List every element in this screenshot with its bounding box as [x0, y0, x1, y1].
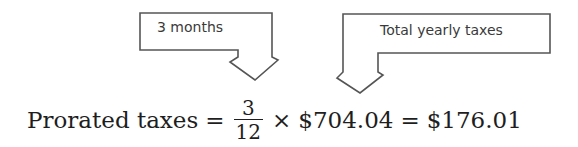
result-amount: $176.01: [427, 107, 522, 133]
equals-sign: =: [205, 107, 224, 133]
equation-lhs: Prorated taxes: [27, 107, 198, 133]
times-sign: ×: [272, 107, 291, 133]
three-months-label: 3 months: [157, 19, 223, 35]
total-yearly-taxes-label: Total yearly taxes: [380, 22, 503, 38]
fraction: 3 12: [234, 98, 263, 142]
equals-sign-2: =: [400, 107, 419, 133]
fraction-denominator: 12: [234, 120, 263, 142]
yearly-amount: $704.04: [298, 107, 393, 133]
prorated-taxes-equation: Prorated taxes = 3 12 × $704.04 = $176.0…: [27, 96, 522, 144]
fraction-numerator: 3: [240, 98, 257, 119]
